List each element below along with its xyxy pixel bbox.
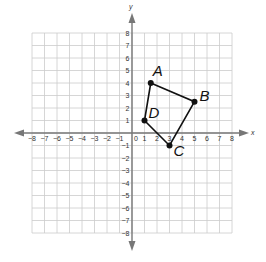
quadrilateral-abcd: ABCD [142, 62, 210, 159]
x-axis-label: x [250, 129, 255, 136]
y-tick-label: −7 [122, 217, 130, 224]
x-tick-label: −4 [78, 135, 86, 142]
y-tick-label: 6 [126, 55, 130, 62]
x-tick-label: −1 [116, 135, 124, 142]
y-tick-label: −5 [122, 192, 130, 199]
y-tick-label: −3 [122, 167, 130, 174]
y-tick-label: 8 [126, 30, 130, 37]
x-tick-label: 3 [168, 135, 172, 142]
x-tick-label: 5 [193, 135, 197, 142]
vertex-point-c [167, 143, 173, 149]
x-tick-label: −6 [53, 135, 61, 142]
axes: x y 0 [14, 3, 255, 251]
y-tick-label: −8 [122, 230, 130, 237]
x-tick-label: −3 [91, 135, 99, 142]
y-tick-label: 4 [126, 80, 130, 87]
y-axis-down-arrow-icon [129, 241, 136, 251]
y-axis-label: y [128, 3, 133, 11]
y-tick-label: −2 [122, 155, 130, 162]
vertex-label-c: C [174, 142, 185, 159]
y-tick-label: 7 [126, 42, 130, 49]
y-tick-label: −1 [122, 142, 130, 149]
x-tick-label: 6 [205, 135, 209, 142]
x-tick-label: 8 [230, 135, 234, 142]
x-tick-label: 7 [218, 135, 222, 142]
x-tick-label: −8 [28, 135, 36, 142]
vertex-label-d: D [149, 104, 160, 121]
x-axis-left-arrow-icon [14, 130, 24, 137]
x-axis-right-arrow-icon [239, 130, 249, 137]
vertex-point-a [148, 80, 154, 86]
y-axis-up-arrow-icon [129, 13, 136, 23]
y-tick-label: −4 [122, 180, 130, 187]
x-tick-label: −5 [66, 135, 74, 142]
x-tick-label: −2 [103, 135, 111, 142]
vertex-label-b: B [200, 87, 210, 104]
origin-label: 0 [134, 135, 138, 142]
x-tick-label: 2 [155, 135, 159, 142]
y-tick-label: −6 [122, 205, 130, 212]
vertex-label-a: A [152, 62, 163, 79]
y-tick-label: 1 [126, 117, 130, 124]
x-tick-label: −7 [41, 135, 49, 142]
vertex-point-d [142, 118, 148, 124]
y-tick-label: 5 [126, 67, 130, 74]
y-tick-label: 2 [126, 105, 130, 112]
coordinate-plane: x y 0 −8−7−6−5−4−3−2−112345678−8−7−6−5−4… [0, 0, 266, 262]
vertex-point-b [192, 99, 198, 105]
y-tick-label: 3 [126, 92, 130, 99]
x-tick-label: 1 [143, 135, 147, 142]
